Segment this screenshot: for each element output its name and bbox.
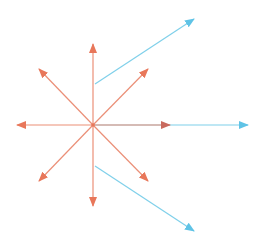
red-arrow-down-right	[93, 125, 148, 181]
vector-diagram	[0, 0, 264, 246]
red-arrow-up-right	[93, 69, 148, 125]
red-arrow-up-left	[39, 69, 93, 125]
red-arrow-down-left	[39, 125, 93, 181]
blue-arrow-lower	[95, 166, 194, 231]
blue-arrow-upper	[95, 19, 194, 84]
origin-point	[91, 123, 95, 127]
